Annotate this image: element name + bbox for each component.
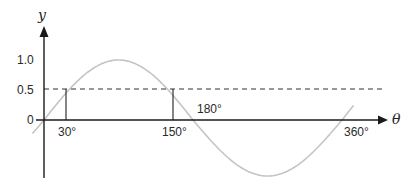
x-label-360: 360° — [344, 125, 369, 139]
sine-curve — [32, 60, 353, 176]
x-label-150: 150° — [162, 125, 187, 139]
x-axis-arrow-icon — [378, 116, 388, 125]
y-tick-05: 0.5 — [17, 83, 34, 97]
y-tick-0: 0 — [27, 113, 34, 127]
y-axis-arrow-icon — [40, 26, 49, 37]
x-label-180: 180° — [197, 102, 222, 116]
y-axis-label: y — [37, 7, 47, 23]
x-label-30: 30° — [58, 125, 76, 139]
sine-graph: y θ 1.0 0.5 0 30° 150° 180° 360° — [0, 0, 415, 190]
x-axis-label: θ — [392, 111, 401, 127]
y-tick-1: 1.0 — [17, 53, 34, 67]
